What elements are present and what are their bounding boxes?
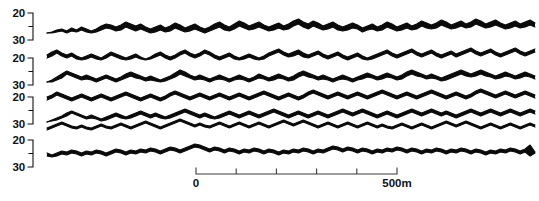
scale-bar-start-label: 0: [193, 177, 199, 189]
axis-label-top-2: 20: [13, 52, 25, 64]
scale-bar-end-label: 500m: [382, 177, 411, 189]
figure-canvas: 2030203020302030 0500m: [0, 0, 539, 201]
seismic-profile-figure: 2030203020302030 0500m: [0, 0, 539, 201]
axis-label-top-3: 20: [13, 91, 25, 103]
axis-label-bottom-4: 30: [13, 161, 25, 173]
axis-label-top-4: 20: [13, 134, 25, 146]
axis-label-bottom-1: 30: [13, 34, 25, 46]
axis-label-bottom-2: 30: [13, 79, 25, 91]
axis-label-bottom-3: 30: [13, 118, 25, 130]
axis-label-top-1: 20: [13, 7, 25, 19]
